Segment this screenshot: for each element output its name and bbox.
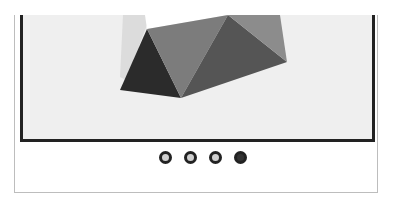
pagination-dot-4-active[interactable] bbox=[234, 151, 247, 164]
pagination-dot-1[interactable] bbox=[159, 151, 172, 164]
slide-image bbox=[23, 15, 375, 142]
pagination-dot-3[interactable] bbox=[209, 151, 222, 164]
pagination-dot-2[interactable] bbox=[184, 151, 197, 164]
carousel-slide[interactable] bbox=[20, 15, 375, 142]
image-carousel bbox=[14, 15, 378, 193]
carousel-pagination bbox=[15, 151, 377, 164]
